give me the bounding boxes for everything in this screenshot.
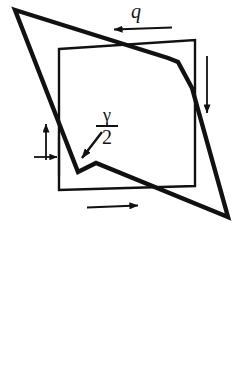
bottom-shear-arrow	[87, 206, 138, 208]
shear-angle-denominator: 2	[95, 128, 119, 147]
top-shear-arrow	[114, 28, 172, 30]
shear-deformation-svg	[0, 0, 241, 377]
shear-angle-numerator: γ	[95, 107, 119, 124]
figure-root: q γ 2	[0, 0, 241, 377]
shear-angle-label: γ 2	[95, 107, 119, 147]
shear-flow-label: q	[131, 1, 141, 21]
